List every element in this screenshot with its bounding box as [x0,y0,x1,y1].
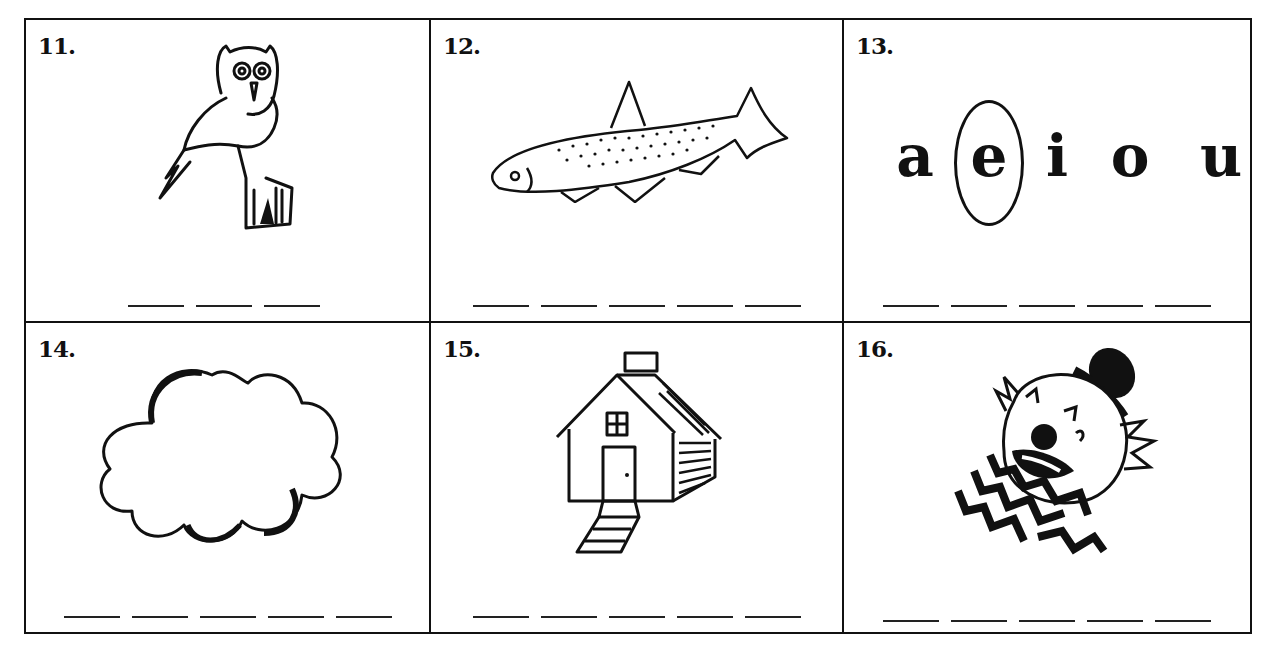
answer-blank[interactable] [473,616,529,618]
vowel-i: i [1032,122,1082,190]
answer-blank[interactable] [264,305,320,307]
answer-blanks [844,305,1250,307]
vowel-e-circled: e [946,122,1032,190]
answer-blanks [431,616,842,618]
answer-blank[interactable] [1019,305,1075,307]
answer-blank[interactable] [745,305,801,307]
vowel-u: u [1178,122,1264,190]
vowel-a: a [884,122,946,190]
fish-picture-icon [489,78,789,203]
answer-blank[interactable] [677,305,733,307]
answer-blank[interactable] [128,305,184,307]
item-number: 12. [443,32,480,59]
answer-blank[interactable] [64,616,120,618]
answer-blank[interactable] [677,616,733,618]
cell-11-owl: 11. [26,20,431,323]
cell-14-cloud: 14. [26,323,431,632]
answer-blank[interactable] [1019,620,1075,622]
answer-blank[interactable] [541,305,597,307]
answer-blanks [26,305,429,307]
answer-blank[interactable] [951,305,1007,307]
vowel-row: a e i o u [884,122,1264,190]
answer-blank[interactable] [609,305,665,307]
answer-blank[interactable] [200,616,256,618]
answer-blank[interactable] [951,620,1007,622]
answer-blanks [431,305,842,307]
item-number: 16. [856,335,893,362]
answer-blank[interactable] [336,616,392,618]
clown-picture-icon [944,341,1164,556]
answer-blanks [844,620,1250,622]
answer-blank[interactable] [1087,620,1143,622]
answer-blank[interactable] [745,616,801,618]
answer-blank[interactable] [1087,305,1143,307]
answer-blank[interactable] [883,620,939,622]
house-picture-icon [555,347,725,557]
item-number: 15. [443,335,480,362]
vowel-o: o [1082,122,1178,190]
cell-12-fish: 12. [431,20,844,323]
item-number: 13. [856,32,893,59]
answer-blank[interactable] [609,616,665,618]
answer-blank[interactable] [1155,620,1211,622]
answer-blank[interactable] [541,616,597,618]
answer-blank[interactable] [132,616,188,618]
cell-16-clown: 16. [844,323,1250,632]
answer-blank[interactable] [196,305,252,307]
cloud-picture-icon [92,361,354,551]
cell-15-house: 15. [431,323,844,632]
answer-blank[interactable] [883,305,939,307]
owl-picture-icon [156,38,306,238]
worksheet-grid: 11. 12. [24,18,1252,634]
answer-blank[interactable] [1155,305,1211,307]
cell-13-vowels: 13. a e i o u [844,20,1250,323]
answer-blank[interactable] [473,305,529,307]
answer-blanks [26,616,429,618]
item-number: 14. [38,335,75,362]
answer-blank[interactable] [268,616,324,618]
item-number: 11. [38,32,75,59]
